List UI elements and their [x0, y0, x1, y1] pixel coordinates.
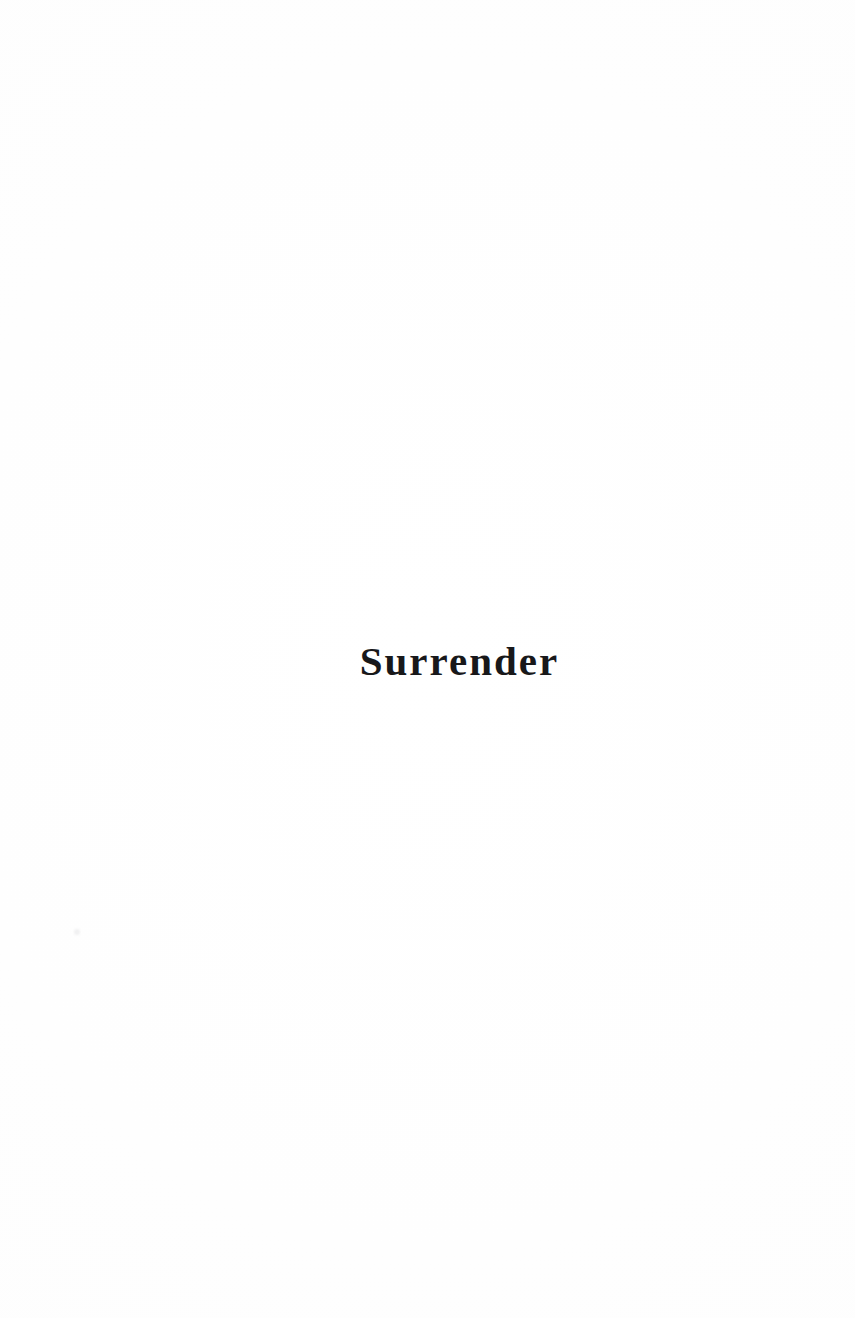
- scanned-book-page: Surrender: [0, 0, 855, 1318]
- page-title: Surrender: [360, 639, 559, 683]
- part-title-block: Surrender: [0, 612, 855, 711]
- scan-speck-artifact: [74, 929, 80, 935]
